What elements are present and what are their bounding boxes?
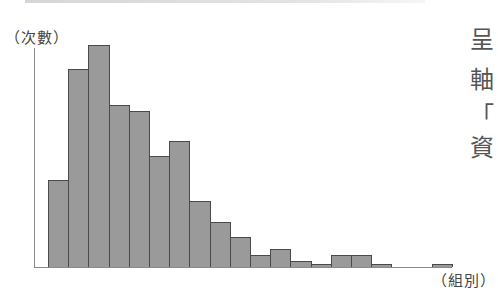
histogram-bar: 15	[210, 222, 231, 267]
histogram-bar: 54	[109, 105, 130, 267]
histogram-bar: 4	[250, 255, 271, 267]
histogram-bar: 2	[290, 261, 311, 267]
histogram-bar: 1	[371, 264, 392, 267]
histogram-bar: 10	[230, 237, 251, 267]
side-char: 資	[470, 136, 494, 160]
histogram-bar: 37	[149, 156, 170, 267]
histogram-bar: 29	[48, 180, 69, 267]
histogram-plot-area: 296674545237422215104621441001	[48, 40, 452, 267]
side-char: 呈	[470, 28, 494, 52]
x-axis-line	[34, 267, 452, 268]
histogram-bar: 1	[432, 264, 453, 267]
histogram-bar: 66	[68, 69, 89, 267]
histogram-bar: 52	[129, 111, 150, 267]
y-axis-line	[34, 48, 35, 267]
histogram-bar: 22	[189, 201, 210, 267]
side-char: 軸	[470, 68, 494, 92]
histogram-bar: 6	[270, 249, 291, 267]
histogram-bar: 74	[88, 45, 109, 267]
top-rule	[25, 0, 425, 3]
side-char: 「	[470, 104, 494, 128]
histogram-bar: 4	[331, 255, 352, 267]
x-axis-label: （組別）	[432, 269, 496, 290]
histogram-bar: 42	[169, 141, 190, 267]
histogram-bar: 4	[351, 255, 372, 267]
histogram-bar: 1	[311, 264, 332, 267]
